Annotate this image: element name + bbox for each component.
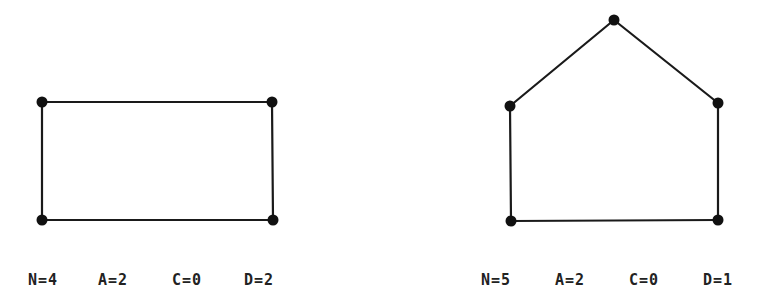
square-stat-c: C=0 [172, 271, 202, 289]
square-stat-a: A=2 [98, 271, 128, 289]
graph-edge [510, 20, 614, 106]
graph-node [506, 216, 517, 227]
graph-edge [614, 20, 718, 103]
graph-node [267, 97, 278, 108]
diagram-canvas [0, 0, 769, 305]
graph-edge [511, 220, 718, 221]
graph-node [37, 97, 48, 108]
pentagon-stat-n: N=5 [481, 271, 511, 289]
graph-node [268, 215, 279, 226]
graph-node [713, 215, 724, 226]
graph-node [713, 98, 724, 109]
pentagon-stat-a: A=2 [555, 271, 585, 289]
pentagon-stat-d: D=1 [703, 271, 733, 289]
graph-edge [272, 102, 273, 220]
pentagon-graph [505, 15, 724, 227]
graph-node [37, 215, 48, 226]
square-graph [37, 97, 279, 226]
graph-edge [510, 106, 511, 221]
square-stat-d: D=2 [244, 271, 274, 289]
square-stat-n: N=4 [28, 271, 58, 289]
graph-node [505, 101, 516, 112]
graph-node [609, 15, 620, 26]
pentagon-stat-c: C=0 [629, 271, 659, 289]
